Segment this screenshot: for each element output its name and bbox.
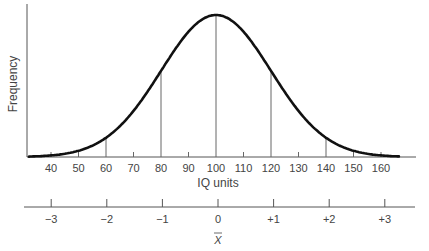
x-tick-label: 140 (317, 162, 335, 174)
x-tick-label: 160 (372, 162, 390, 174)
mean-symbol: X (213, 233, 222, 246)
distribution-curve (29, 15, 399, 157)
sigma-tick-label: +3 (379, 213, 392, 225)
sigma-tick-label: −2 (101, 213, 114, 225)
x-tick-label: 120 (262, 162, 280, 174)
x-tick-label: 60 (100, 162, 112, 174)
x-axis-label: IQ units (197, 176, 238, 190)
x-tick-label: 80 (155, 162, 167, 174)
x-tick-label: 130 (289, 162, 307, 174)
normal-distribution-chart: 405060708090100110120130140150160 Freque… (0, 0, 429, 251)
x-tick-label: 50 (72, 162, 84, 174)
x-tick-label: 40 (45, 162, 57, 174)
sigma-tick-label: −3 (45, 213, 58, 225)
sigma-axis: −3−2−10+1+2+3 (24, 199, 415, 225)
x-tick-label: 110 (235, 162, 253, 174)
x-tick-label: 90 (182, 162, 194, 174)
plot-area: 405060708090100110120130140150160 (27, 4, 416, 174)
sigma-tick-label: −1 (156, 213, 169, 225)
mean-label: X (213, 234, 222, 246)
x-tick-label: 150 (344, 162, 362, 174)
sigma-tick-label: +2 (323, 213, 336, 225)
sigma-tick-label: 0 (215, 213, 221, 225)
x-tick-label: 70 (127, 162, 139, 174)
y-axis-label: Frequency (6, 56, 20, 113)
x-tick-label: 100 (207, 162, 225, 174)
sigma-tick-label: +1 (267, 213, 280, 225)
